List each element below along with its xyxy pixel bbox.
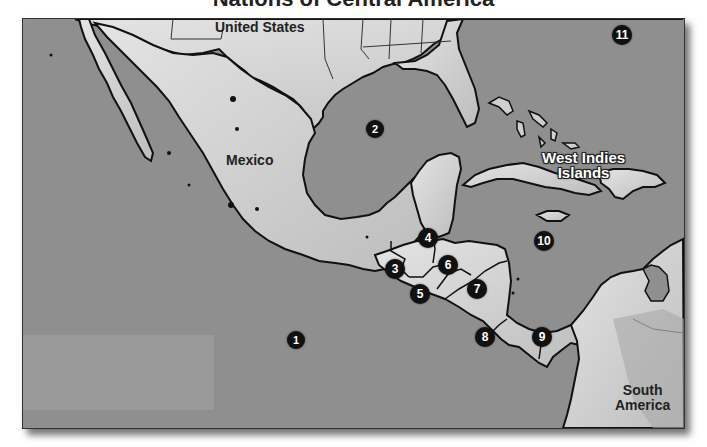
label-west-indies-line2: Islands [542,165,625,180]
marker-11[interactable]: 11 [612,25,632,45]
label-mexico: Mexico [226,153,273,168]
marker-1[interactable]: 1 [287,331,305,349]
label-south-america: South America [615,383,670,413]
marker-9[interactable]: 9 [532,327,552,347]
marker-3[interactable]: 3 [385,259,405,279]
legend-box [23,335,214,410]
marker-5[interactable]: 5 [410,284,430,304]
map-title: Nations of Central America [0,0,707,12]
label-south-america-line2: America [615,398,670,413]
marker-10[interactable]: 10 [534,231,554,251]
label-united-states: United States [215,20,304,35]
map-frame: United States Mexico West Indies Islands… [22,18,685,429]
marker-7[interactable]: 7 [467,279,487,299]
label-south-america-line1: South [615,383,670,398]
label-west-indies: West Indies Islands [542,150,625,180]
marker-8[interactable]: 8 [475,327,495,347]
marker-6[interactable]: 6 [438,255,458,275]
marker-2[interactable]: 2 [366,120,384,138]
label-west-indies-line1: West Indies [542,150,625,165]
marker-4[interactable]: 4 [418,228,438,248]
